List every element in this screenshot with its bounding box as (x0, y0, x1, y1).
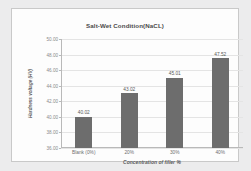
chart-screenshot: Salt-Wet Condition(NaCL) Hardness voltag… (0, 0, 251, 171)
y-tick-mark (59, 132, 61, 133)
y-tick-mark (59, 86, 61, 87)
y-tick-label: 40.00 (47, 114, 59, 119)
bar-slot: 45.01 (152, 39, 198, 148)
gridline (61, 148, 243, 149)
y-tick-label: 46.00 (47, 68, 59, 73)
y-tick-label: 36.00 (47, 146, 59, 151)
bar-value-label: 40.02 (78, 110, 90, 115)
y-tick-mark (59, 70, 61, 71)
x-tick-label: Blank (0%) (61, 150, 107, 155)
y-tick-mark (59, 101, 61, 102)
bar: 47.52 (212, 58, 229, 148)
x-tick-label: 20% (107, 150, 153, 155)
y-axis-title: Hardness voltage (HV) (28, 39, 37, 148)
y-tick-label: 48.00 (47, 52, 59, 57)
bar-series: 40.0243.0245.0147.52 (61, 39, 243, 148)
y-tick-label: 50.00 (47, 37, 59, 42)
bar-value-label: 45.01 (169, 71, 181, 76)
plot-area: 40.0243.0245.0147.52 36.0038.0040.0042.0… (61, 39, 243, 148)
y-tick-label: 44.00 (47, 83, 59, 88)
y-tick-mark (59, 117, 61, 118)
bar-value-label: 43.02 (123, 87, 135, 92)
y-tick-mark (59, 55, 61, 56)
bar-slot: 40.02 (61, 39, 107, 148)
y-tick-label: 42.00 (47, 99, 59, 104)
x-axis-title: Concentration of filler % (61, 159, 243, 165)
bar-slot: 43.02 (107, 39, 153, 148)
bar-slot: 47.52 (198, 39, 244, 148)
bar: 40.02 (75, 117, 92, 148)
x-axis-tick-labels: Blank (0%)20%30%40% (61, 150, 243, 155)
bar-value-label: 47.52 (214, 52, 226, 57)
chart-title: Salt-Wet Condition(NaCL) (12, 22, 238, 29)
chart-canvas: Salt-Wet Condition(NaCL) Hardness voltag… (11, 8, 239, 162)
y-tick-mark (59, 148, 61, 149)
bar: 43.02 (121, 93, 138, 148)
y-tick-label: 38.00 (47, 130, 59, 135)
x-tick-label: 40% (198, 150, 244, 155)
y-tick-mark (59, 39, 61, 40)
bar: 45.01 (166, 78, 183, 148)
x-tick-label: 30% (152, 150, 198, 155)
